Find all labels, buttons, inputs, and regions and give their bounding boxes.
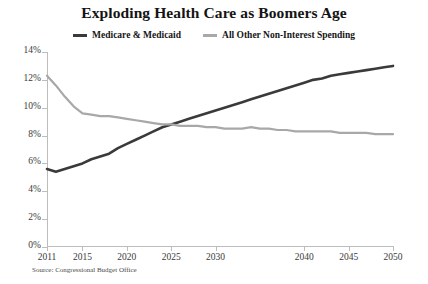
chart-title: Exploding Health Care as Boomers Age (0, 4, 428, 22)
y-tick-label: 14% (1, 45, 41, 55)
legend-label: All Other Non-Interest Spending (222, 30, 355, 40)
y-tick-label: 10% (1, 101, 41, 111)
plot-area: 0%2%4%6%8%10%12%14% 20112015202020252030… (47, 52, 393, 247)
x-tick-label: 2030 (196, 252, 236, 262)
x-tick-label: 2025 (151, 252, 191, 262)
x-tick-label: 2015 (62, 252, 102, 262)
x-tick-label: 2011 (27, 252, 67, 262)
legend-item-0: Medicare & Medicaid (73, 30, 181, 40)
y-tick-label: 2% (1, 212, 41, 222)
series-line-1 (47, 76, 393, 134)
legend-item-1: All Other Non-Interest Spending (203, 30, 355, 40)
x-tick-mark (393, 246, 394, 251)
legend-label: Medicare & Medicaid (92, 30, 181, 40)
series-lines (47, 52, 393, 247)
source-note: Source: Congressional Budget Office (32, 266, 137, 274)
legend-swatch-icon (203, 34, 217, 37)
legend-swatch-icon (73, 34, 87, 37)
series-line-0 (47, 66, 393, 172)
y-tick-label: 0% (1, 240, 41, 250)
chart-container: Exploding Health Care as Boomers Age Med… (0, 0, 428, 284)
y-tick-label: 6% (1, 156, 41, 166)
x-tick-label: 2020 (107, 252, 147, 262)
chart-legend: Medicare & MedicaidAll Other Non-Interes… (0, 30, 428, 40)
y-tick-label: 8% (1, 129, 41, 139)
x-tick-label: 2045 (329, 252, 369, 262)
y-tick-label: 12% (1, 73, 41, 83)
x-tick-label: 2040 (284, 252, 324, 262)
x-tick-label: 2050 (373, 252, 413, 262)
y-tick-label: 4% (1, 184, 41, 194)
